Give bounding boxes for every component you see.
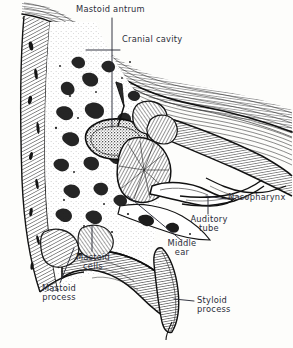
label-auditory-tube: Auditory tube <box>181 215 237 234</box>
label-mastoid-cells: Mastoid cells <box>66 253 120 272</box>
label-mastoid-antrum: Mastoid antrum <box>76 5 145 14</box>
label-cranial-cavity: Cranial cavity <box>122 35 182 44</box>
label-nasopharynx: Nasopharynx <box>228 193 286 202</box>
label-mastoid-process: Mastoid process <box>30 284 88 303</box>
label-styloid-process: Styloid process <box>197 296 231 315</box>
anatomical-figure: Mastoid antrum Cranial cavity Nasopharyn… <box>0 0 293 348</box>
label-middle-ear: Middle ear <box>158 239 206 258</box>
